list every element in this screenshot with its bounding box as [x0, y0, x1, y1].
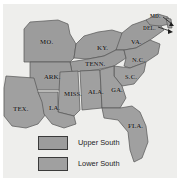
state-label-ms: MISS. [64, 90, 82, 97]
state-label-ky: KY. [97, 44, 108, 51]
legend-swatch-lower-south [38, 157, 68, 171]
south-region-map: MO. KY. MD. DEL. VA. TENN. N.C. ARK. S.C… [0, 0, 180, 181]
state-label-nc: N.C. [132, 56, 145, 63]
state-label-tx: TEX. [13, 105, 28, 112]
legend-item-upper-south: Upper South [38, 134, 120, 151]
state-label-va: VA. [131, 38, 141, 45]
state-label-sc: S.C. [125, 73, 137, 80]
state-label-de: DEL. [143, 25, 156, 31]
map-legend: Upper South Lower South [38, 134, 120, 176]
state-label-al: ALA. [88, 88, 104, 95]
state-label-fl: FLA. [128, 122, 143, 129]
state-label-ga: GA. [111, 86, 123, 93]
state-label-la: LA. [49, 104, 60, 111]
state-label-md: MD. [150, 13, 160, 19]
state-label-ar: ARK. [44, 73, 60, 80]
legend-label-lower-south: Lower South [78, 159, 120, 168]
legend-item-lower-south: Lower South [38, 155, 120, 172]
legend-swatch-upper-south [38, 136, 68, 150]
state-label-tn: TENN. [85, 60, 105, 67]
legend-label-upper-south: Upper South [78, 138, 120, 147]
state-label-mo: MO. [40, 38, 53, 45]
